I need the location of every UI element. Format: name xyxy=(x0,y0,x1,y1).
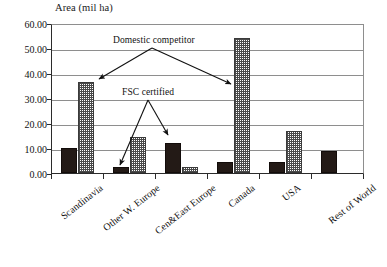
y-axis: 0.00 10.00 20.00 30.00 40.00 50.00 60.00 xyxy=(0,24,47,174)
gridline-50 xyxy=(52,50,363,51)
annotation-domestic-competitor: Domestic competitor xyxy=(113,35,195,45)
y-tick-label-40: 40.00 xyxy=(3,69,47,80)
x-label-cen-east-europe: Cen&East Europe xyxy=(153,182,218,236)
y-tick-label-60: 60.00 xyxy=(3,19,47,30)
x-tick-2 xyxy=(155,174,156,179)
bar-certified-usa[interactable] xyxy=(269,162,285,173)
gridline-20 xyxy=(52,125,363,126)
bar-certified-rest-of-world[interactable] xyxy=(321,151,337,174)
x-tick-0 xyxy=(51,174,52,179)
y-tick-label-10: 10.00 xyxy=(3,144,47,155)
bar-certified-scandinavia[interactable] xyxy=(61,148,77,173)
chart-title: Area (mil ha) xyxy=(55,2,113,13)
y-tick-label-50: 50.00 xyxy=(3,44,47,55)
y-tick-label-30: 30.00 xyxy=(3,94,47,105)
x-tick-4 xyxy=(259,174,260,179)
bar-certified-canada[interactable] xyxy=(217,162,233,173)
y-tick-label-0: 0.00 xyxy=(3,169,47,180)
bar-domestic-canada[interactable] xyxy=(234,38,250,173)
x-tick-6 xyxy=(363,174,364,179)
x-label-rest-of-world: Rest of World xyxy=(326,182,378,226)
x-tick-5 xyxy=(311,174,312,179)
bar-domestic-usa[interactable] xyxy=(286,131,302,174)
bar-domestic-cen-east-europe[interactable] xyxy=(182,167,198,173)
gridline-30 xyxy=(52,100,363,101)
annotation-fsc-certified: FSC certified xyxy=(122,87,174,97)
bar-certified-cen-east-europe[interactable] xyxy=(165,143,181,173)
gridline-40 xyxy=(52,75,363,76)
x-label-usa: USA xyxy=(280,182,303,203)
bar-certified-other-w-europe[interactable] xyxy=(113,167,129,173)
x-label-other-w-europe: Other W. Europe xyxy=(101,182,162,233)
chart-screenshot: Area (mil ha) 0.00 10.00 20.00 30.00 40.… xyxy=(0,0,387,267)
x-label-canada: Canada xyxy=(226,182,257,210)
x-tick-3 xyxy=(207,174,208,179)
plot-area xyxy=(51,24,364,174)
x-label-scandinavia: Scandinavia xyxy=(59,182,105,221)
gridline-10 xyxy=(52,150,363,151)
bar-domestic-scandinavia[interactable] xyxy=(78,82,94,173)
x-tick-1 xyxy=(103,174,104,179)
bar-domestic-other-w-europe[interactable] xyxy=(130,137,146,173)
y-tick-label-20: 20.00 xyxy=(3,119,47,130)
